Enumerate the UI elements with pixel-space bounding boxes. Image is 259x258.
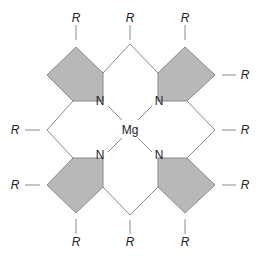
n-label-top-right: N: [155, 94, 164, 108]
r-label-top-right: R: [181, 11, 190, 25]
mg-label: Mg: [122, 123, 139, 137]
pyrrole-ring-bottom-right: [158, 158, 215, 213]
n-label-bottom-right: N: [155, 148, 164, 162]
bond-n-mg-tl: [108, 106, 122, 120]
pyrrole-ring-bottom-left: [47, 158, 103, 213]
bond-n-mg-tr: [138, 106, 152, 120]
r-label-right-bottom: R: [241, 178, 250, 192]
r-label-right-top: R: [241, 68, 250, 82]
r-label-bottom-mid: R: [126, 235, 135, 249]
r-label-top-mid: R: [126, 11, 135, 25]
pyrrole-ring-top-left: [47, 47, 103, 101]
pyrrole-ring-top-right: [158, 47, 215, 101]
r-label-top-left: R: [72, 11, 81, 25]
bond-n-mg-br: [138, 138, 152, 152]
bridge-top: [103, 44, 158, 73]
r-label-left-mid: R: [11, 123, 20, 137]
bridge-bottom: [103, 187, 158, 215]
chlorophyll-core-diagram: Mg N N N N R R R R R R R R R R R: [0, 0, 259, 258]
r-label-right-mid: R: [241, 123, 250, 137]
bridge-right: [187, 101, 215, 158]
r-label-bottom-left: R: [72, 235, 81, 249]
bond-n-mg-bl: [108, 138, 122, 152]
bridge-left: [47, 101, 73, 158]
r-label-bottom-right: R: [181, 235, 190, 249]
n-label-top-left: N: [96, 94, 105, 108]
n-label-bottom-left: N: [96, 148, 105, 162]
r-label-left-bottom: R: [11, 178, 20, 192]
